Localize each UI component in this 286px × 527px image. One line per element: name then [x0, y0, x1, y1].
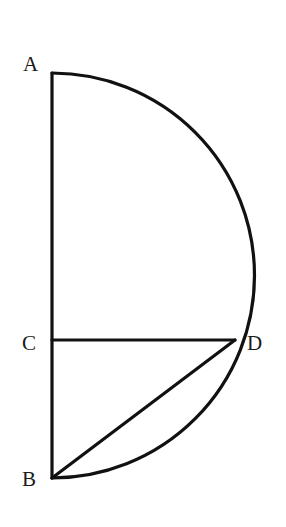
- label-b: B: [22, 467, 36, 491]
- geometry-diagram: A C D B: [0, 0, 286, 527]
- semicircle-arc: [52, 73, 255, 478]
- label-a: A: [23, 52, 39, 76]
- label-c: C: [22, 331, 36, 355]
- label-d: D: [247, 331, 262, 355]
